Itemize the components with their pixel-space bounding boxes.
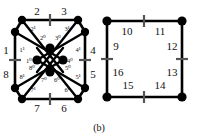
label-octagon-edge-4: 4 [90,44,96,56]
label-diagonal-7-0: 7⁰ [41,76,47,83]
node-right-top [81,28,89,36]
label-square-edge-11: 11 [155,25,166,37]
node-left-top [11,28,19,36]
label-octagon-edge-1: 1 [3,44,9,56]
node-inner-top [45,43,54,52]
label-diagonal-7-1: 7¹ [30,86,35,93]
label-diagonal-3-0: 3⁰ [55,34,61,41]
label-square-edge-12: 12 [167,40,178,52]
square-tick-marks [101,15,188,103]
label-diagonal-4-0: 4⁰ [67,57,73,64]
square-graph: 10 11 9 16 12 13 15 14 [101,15,188,103]
label-diagonal-4-1: 4¹ [75,46,80,53]
label-diagonal-5-0: 5⁰ [65,64,71,71]
label-diagonal-1-0: 1⁰ [26,57,32,64]
node-left-bottom [11,84,19,92]
label-square-edge-15: 15 [123,79,135,91]
figure-svg: 2 3 1 8 4 5 7 6 1¹ 1⁰ 2¹ 2⁰ 3¹ 3⁰ 4¹ 4⁰ … [0,0,198,140]
square-node-top-left [102,16,111,25]
label-octagon-edge-6: 6 [61,102,67,114]
label-octagon-edge-2: 2 [34,5,40,17]
node-top-right [74,16,82,24]
node-bottom-left [18,95,26,103]
label-square-edge-10: 10 [122,25,134,37]
label-diagonal-8-1: 8¹ [19,73,24,80]
label-octagon-edge-8: 8 [3,68,9,80]
label-diagonal-5-1: 5¹ [75,73,80,80]
figure-caption: (b) [93,122,105,134]
square-node-bottom-right [177,92,186,101]
label-diagonal-3-1: 3¹ [64,25,69,32]
label-square-edge-13: 13 [167,66,179,78]
square-nodes [102,16,186,101]
label-square-edge-9: 9 [113,40,119,52]
label-diagonal-2-1: 2¹ [30,25,35,32]
square-node-top-right [177,16,186,25]
label-diagonal-6-1: 6¹ [64,86,69,93]
label-octagon-edge-7: 7 [34,102,40,114]
label-octagon-edge-3: 3 [61,5,67,17]
figure-container: 2 3 1 8 4 5 7 6 1¹ 1⁰ 2¹ 2⁰ 3¹ 3⁰ 4¹ 4⁰ … [0,0,198,140]
octagon-graph: 2 3 1 8 4 5 7 6 1¹ 1⁰ 2¹ 2⁰ 3¹ 3⁰ 4¹ 4⁰ … [3,5,96,114]
label-octagon-edge-5: 5 [90,68,96,80]
label-square-edge-14: 14 [155,79,167,91]
square-edges [107,21,182,97]
label-diagonal-1-1: 1¹ [19,46,24,53]
node-right-bottom [81,84,89,92]
label-diagonal-8-0: 8⁰ [29,64,35,71]
node-bottom-right [74,95,82,103]
label-diagonal-2-0: 2⁰ [40,34,46,41]
square-node-bottom-left [102,92,111,101]
label-diagonal-6-0: 6⁰ [54,76,60,83]
node-top-left [18,16,26,24]
label-square-edge-16: 16 [113,66,125,78]
